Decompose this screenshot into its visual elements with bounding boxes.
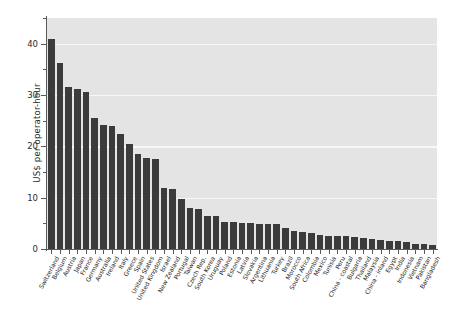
- bar: [161, 188, 168, 249]
- x-tick: [277, 250, 278, 254]
- bar: [213, 216, 220, 249]
- y-axis-title: US$ per operator-hour: [32, 33, 42, 233]
- y-minor-tick: [43, 18, 47, 19]
- x-tick: [372, 250, 373, 254]
- bar: [152, 159, 159, 249]
- x-tick: [181, 250, 182, 254]
- x-tick: [121, 250, 122, 254]
- bar: [308, 233, 315, 249]
- bar: [299, 232, 306, 249]
- y-tick-label: 30: [0, 90, 38, 100]
- y-axis-line: [46, 16, 47, 251]
- y-tick-label: 10: [0, 193, 38, 203]
- bar-chart-figure: US$ per operator-hour 010203040 Switzerl…: [0, 0, 461, 313]
- bar: [221, 222, 228, 249]
- bar: [247, 223, 254, 249]
- x-tick: [155, 250, 156, 254]
- y-tick: [41, 44, 47, 45]
- y-tick: [41, 146, 47, 147]
- x-tick: [268, 250, 269, 254]
- bar: [195, 209, 202, 249]
- bar: [143, 158, 150, 249]
- x-tick: [138, 250, 139, 254]
- x-tick: [259, 250, 260, 254]
- bar: [117, 134, 124, 250]
- bar: [109, 126, 116, 249]
- x-tick: [207, 250, 208, 254]
- bar: [126, 144, 133, 249]
- x-tick: [233, 250, 234, 254]
- x-tick: [251, 250, 252, 254]
- bar: [386, 241, 393, 249]
- x-tick: [398, 250, 399, 254]
- plot-area: [47, 18, 437, 249]
- gridline: [47, 95, 437, 96]
- bar: [187, 208, 194, 249]
- x-tick: [86, 250, 87, 254]
- bar: [178, 199, 185, 249]
- x-tick: [216, 250, 217, 254]
- bar: [169, 189, 176, 249]
- x-tick: [69, 250, 70, 254]
- x-tick: [199, 250, 200, 254]
- x-tick: [407, 250, 408, 254]
- x-tick: [355, 250, 356, 254]
- bar: [135, 154, 142, 249]
- gridline: [47, 44, 437, 45]
- x-tick: [225, 250, 226, 254]
- x-tick: [51, 250, 52, 254]
- x-tick: [103, 250, 104, 254]
- bar: [351, 237, 358, 249]
- x-tick: [173, 250, 174, 254]
- x-tick: [363, 250, 364, 254]
- x-tick: [389, 250, 390, 254]
- bar: [100, 125, 107, 249]
- x-tick: [311, 250, 312, 254]
- y-tick-label: 0: [0, 244, 38, 254]
- x-tick: [242, 250, 243, 254]
- bar: [273, 224, 280, 249]
- x-tick: [112, 250, 113, 254]
- bar: [377, 240, 384, 249]
- bar: [334, 236, 341, 249]
- bar: [291, 231, 298, 249]
- bar: [343, 236, 350, 249]
- y-minor-tick: [43, 121, 47, 122]
- y-tick: [41, 249, 47, 250]
- bar: [239, 223, 246, 249]
- bar: [317, 235, 324, 249]
- x-tick: [164, 250, 165, 254]
- y-tick: [41, 95, 47, 96]
- x-tick: [329, 250, 330, 254]
- bar: [57, 63, 64, 249]
- bar: [265, 224, 272, 249]
- x-tick: [303, 250, 304, 254]
- x-tick: [190, 250, 191, 254]
- x-tick: [294, 250, 295, 254]
- bar: [395, 241, 402, 249]
- x-tick: [381, 250, 382, 254]
- bar: [403, 242, 410, 249]
- y-minor-tick: [43, 69, 47, 70]
- y-tick: [41, 198, 47, 199]
- x-tick: [424, 250, 425, 254]
- bar: [74, 89, 81, 249]
- x-tick: [95, 250, 96, 254]
- bar: [48, 39, 55, 249]
- x-tick: [337, 250, 338, 254]
- bar: [282, 228, 289, 249]
- x-tick: [433, 250, 434, 254]
- bar: [65, 87, 72, 249]
- x-tick: [129, 250, 130, 254]
- x-tick: [320, 250, 321, 254]
- y-minor-tick: [43, 223, 47, 224]
- x-tick: [147, 250, 148, 254]
- bar: [256, 224, 263, 249]
- x-tick: [415, 250, 416, 254]
- bar: [325, 236, 332, 249]
- bar: [204, 216, 211, 249]
- bar: [91, 118, 98, 249]
- x-tick: [285, 250, 286, 254]
- y-tick-label: 40: [0, 39, 38, 49]
- x-tick: [346, 250, 347, 254]
